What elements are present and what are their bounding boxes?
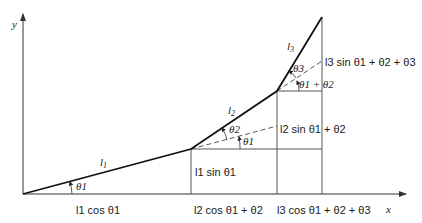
- l1-sin-label: l1 sin θ1: [195, 166, 236, 178]
- l2-cos-label: l2 cos θ1 + θ2: [194, 204, 263, 216]
- theta1-base-arc: [70, 182, 72, 194]
- y-axis-label: y: [11, 18, 17, 30]
- link2-label: l2: [228, 104, 235, 118]
- theta1-base-label: θ1: [76, 180, 87, 192]
- theta2-arc: [222, 128, 227, 140]
- x-axis-label: x: [385, 203, 391, 215]
- diagram-canvas: y x l1 l2 l3 θ1 θ1 θ2 θ1 + θ2 θ3 l1 cos …: [0, 0, 422, 223]
- l3-sin-label: l3 sin θ1 + θ2 + θ3: [325, 56, 416, 68]
- theta1-joint-arc: [239, 137, 240, 149]
- theta1-plus-theta2-label: θ1 + θ2: [299, 78, 334, 90]
- l3-cos-label: l3 cos θ1 + θ2 + θ3: [277, 204, 371, 216]
- link3-label: l3: [287, 40, 294, 54]
- link1-label: l1: [100, 156, 107, 170]
- theta2-label: θ2: [229, 123, 240, 135]
- l1-cos-label: l1 cos θ1: [76, 204, 120, 216]
- l2-sin-label: l2 sin θ1 + θ2: [280, 123, 346, 135]
- kinematics-diagram: y x l1 l2 l3 θ1 θ1 θ2 θ1 + θ2 θ3 l1 cos …: [0, 0, 422, 223]
- theta1-joint-label: θ1: [243, 135, 254, 147]
- theta3-label: θ3: [293, 62, 304, 74]
